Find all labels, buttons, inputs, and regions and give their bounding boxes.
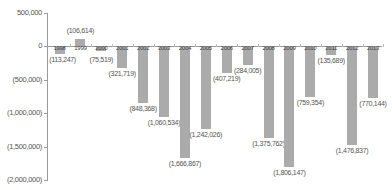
data-label: (1,476,837) (327, 147, 377, 154)
x-tick-label: 1998 (49, 45, 71, 51)
bar-2004 (180, 46, 190, 158)
x-tick-label: 2012 (341, 45, 363, 51)
x-tick-label: 2013 (362, 45, 384, 51)
y-tick-mark (44, 180, 47, 181)
data-label: (1,666,867) (160, 160, 210, 167)
bar-2002 (138, 46, 148, 103)
data-label: (1,806,147) (264, 169, 314, 176)
bar-2003 (159, 46, 169, 117)
data-label: (759,354) (285, 99, 335, 106)
x-tick-label: 2006 (216, 45, 238, 51)
y-tick-label: 0 (0, 41, 42, 50)
y-tick-label: (1,000,000) (0, 108, 42, 117)
y-tick-mark (44, 147, 47, 148)
y-tick-mark (44, 46, 47, 47)
x-tick-label: 2001 (111, 45, 133, 51)
x-tick-label: 2007 (237, 45, 259, 51)
bar-2009 (284, 46, 294, 167)
x-tick-label: 2005 (195, 45, 217, 51)
x-tick-label: 2000 (90, 45, 112, 51)
y-tick-mark (44, 80, 47, 81)
bar-2012 (347, 46, 357, 145)
y-tick-mark (44, 113, 47, 114)
bar-2013 (368, 46, 378, 98)
y-tick-label: (2,000,000) (0, 175, 42, 184)
x-tick-label: 2010 (299, 45, 321, 51)
bar-2008 (264, 46, 274, 138)
x-tick-label: 2004 (174, 45, 196, 51)
x-tick-label: 2011 (320, 45, 342, 51)
data-label: (1,242,026) (181, 131, 231, 138)
bar-2010 (305, 46, 315, 97)
x-tick-label: 2009 (278, 45, 300, 51)
x-tick-label: 1999 (69, 45, 91, 51)
x-tick-label: 2003 (153, 45, 175, 51)
y-tick-label: 500,000 (0, 8, 42, 17)
x-tick-label: 2008 (258, 45, 280, 51)
data-label: (106,614) (55, 27, 105, 34)
y-tick-mark (44, 13, 47, 14)
data-label: (770,144) (348, 100, 392, 107)
y-tick-label: (500,000) (0, 75, 42, 84)
data-label: (407,219) (202, 75, 252, 82)
y-tick-label: (1,500,000) (0, 142, 42, 151)
x-tick-label: 2002 (132, 45, 154, 51)
bar-2005 (201, 46, 211, 129)
y-axis (47, 13, 48, 181)
